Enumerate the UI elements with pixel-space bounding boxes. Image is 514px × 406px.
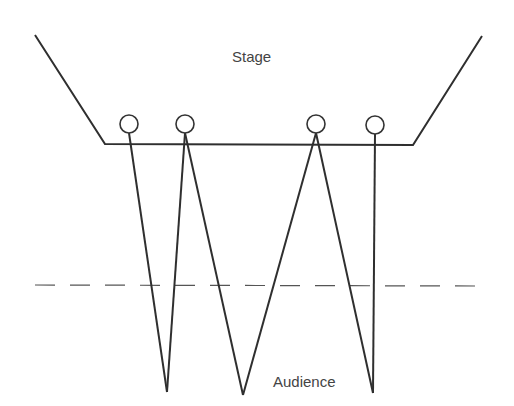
- sightline-4: [243, 133, 316, 395]
- performer-1-circle-icon: [120, 115, 138, 133]
- dashed-line: [35, 285, 482, 286]
- stage-label: Stage: [232, 49, 271, 64]
- performers: [120, 115, 384, 134]
- audience-label: Audience: [273, 374, 336, 389]
- performer-4-circle-icon: [366, 116, 384, 134]
- sightline-5: [316, 133, 373, 393]
- dashed-reference-line: [35, 285, 482, 286]
- performer-3-circle-icon: [307, 115, 325, 133]
- performer-2-circle-icon: [176, 115, 194, 133]
- sightlines: [129, 133, 375, 395]
- sightline-1: [129, 133, 167, 392]
- sightline-6: [373, 134, 375, 393]
- sightline-2: [167, 133, 185, 392]
- sightline-3: [185, 133, 243, 395]
